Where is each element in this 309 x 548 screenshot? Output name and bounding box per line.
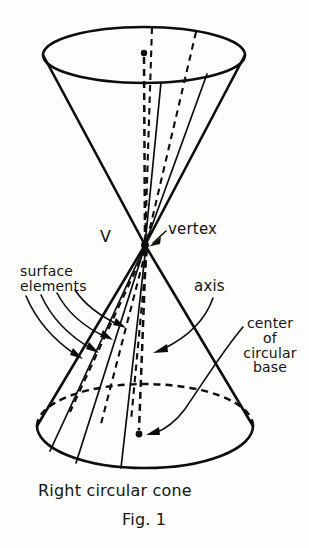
figure-container: vertex V surface elements axis center of…	[0, 0, 309, 548]
center-arrowhead	[146, 427, 160, 435]
surface-leader-3	[57, 293, 106, 337]
surface-leader-4	[75, 290, 119, 325]
label-center-of-circular-base: center of circular base	[236, 316, 304, 375]
center-leader-line	[155, 327, 243, 433]
figure-caption: Right circular cone	[38, 483, 192, 500]
label-vertex: vertex	[168, 222, 217, 238]
label-axis: axis	[194, 279, 225, 295]
upper-axis-dashed	[144, 57, 145, 243]
vertex-arrowhead	[149, 237, 161, 247]
base-center-dot	[136, 431, 143, 438]
label-surface-elements: surface elements	[20, 264, 87, 294]
base-front-arc	[37, 426, 253, 468]
upper-hidden-element-2	[146, 32, 196, 245]
axis-arrowhead	[153, 344, 168, 353]
top-center-dot	[141, 50, 147, 56]
axis-leader-line	[163, 298, 213, 349]
base-back-arc-dashed	[37, 384, 253, 426]
surface-leader-2	[41, 295, 92, 349]
figure-number: Fig. 1	[122, 512, 166, 529]
surface-leader-1	[26, 296, 76, 355]
surface-arrowhead-4	[113, 318, 126, 328]
label-vertex-point: V	[100, 229, 111, 246]
vertex-point	[141, 240, 149, 249]
